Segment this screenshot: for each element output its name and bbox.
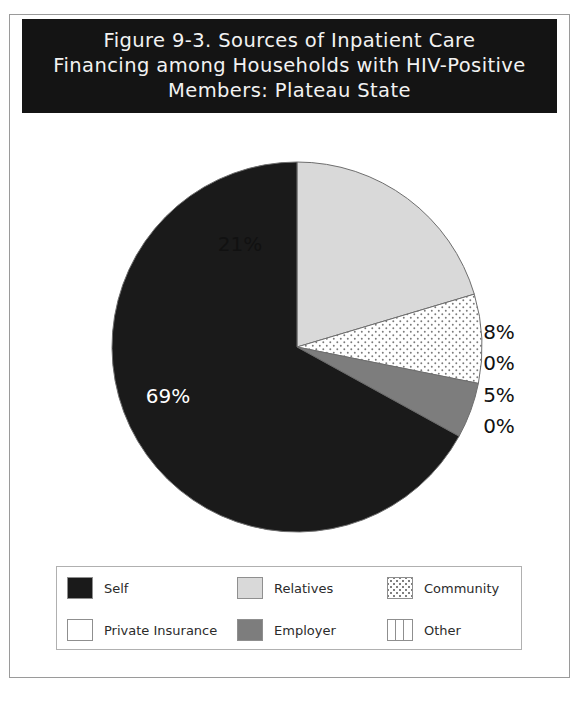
legend-swatch-private-insurance [67, 619, 93, 641]
pie-slice-label-employer: 5% [483, 383, 515, 407]
pie-slice-label-relatives: 21% [218, 232, 262, 256]
legend-swatch-community [387, 577, 413, 599]
pie-chart-svg: 21% 69% 8% 0% 5% 0% [10, 15, 569, 555]
legend-item-self: Self [67, 577, 237, 599]
legend-swatch-relatives [237, 577, 263, 599]
legend-item-other: Other [387, 619, 533, 641]
legend-item-relatives: Relatives [237, 577, 387, 599]
chart-legend: Self Relatives Community Private Insuran… [56, 566, 522, 650]
pie-slices-group [112, 162, 482, 532]
legend-item-community: Community [387, 577, 533, 599]
legend-item-employer: Employer [237, 619, 387, 641]
pie-slice-label-self: 69% [146, 384, 190, 408]
legend-swatch-other [387, 619, 413, 641]
figure-container: Figure 9-3. Sources of Inpatient Care Fi… [9, 14, 570, 678]
legend-label-community: Community [424, 581, 499, 596]
pie-slice-label-other: 0% [483, 414, 515, 438]
pie-slice-label-community: 8% [483, 320, 515, 344]
pie-slice-label-private-insurance: 0% [483, 351, 515, 375]
legend-label-other: Other [424, 623, 461, 638]
legend-label-employer: Employer [274, 623, 336, 638]
legend-label-relatives: Relatives [274, 581, 333, 596]
pie-chart-area: 21% 69% 8% 0% 5% 0% [10, 15, 569, 555]
legend-swatch-self [67, 577, 93, 599]
legend-label-self: Self [104, 581, 128, 596]
legend-swatch-employer [237, 619, 263, 641]
legend-item-private-insurance: Private Insurance [67, 619, 237, 641]
legend-label-private-insurance: Private Insurance [104, 623, 217, 638]
